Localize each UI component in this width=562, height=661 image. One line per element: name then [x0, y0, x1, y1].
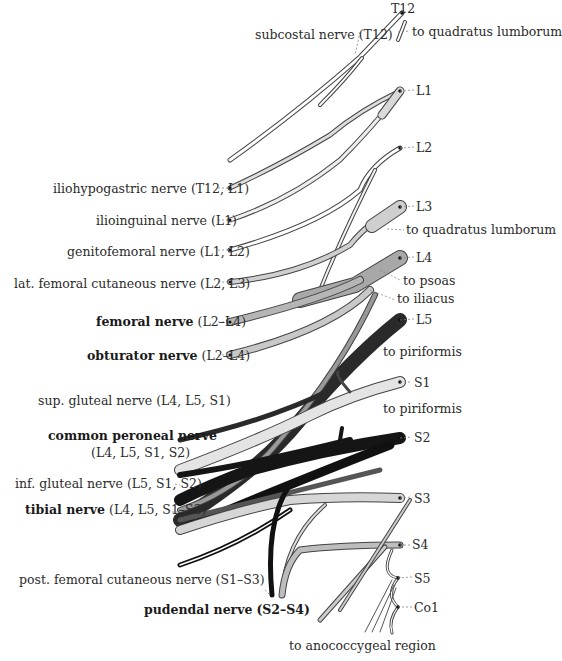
nerve-label-genitofemoral: genitofemoral nerve (L1, L2) — [67, 245, 250, 259]
root-label-L4: L4 — [416, 251, 432, 265]
root-label-T12: T12 — [391, 2, 415, 16]
nerve-label-lat-femoral-cutaneous: lat. femoral cutaneous nerve (L2, L3) — [14, 277, 250, 291]
root-label-L1: L1 — [416, 84, 432, 98]
branch-label-psoas: to psoas — [403, 274, 455, 288]
nerve-label-subcostal: subcostal nerve (T12) — [255, 28, 393, 42]
nerve-label-common-peroneal: common peroneal nerve — [48, 429, 217, 443]
nerve-label-common-peroneal-segments: (L4, L5, S1, S2) — [91, 446, 190, 460]
root-label-L5: L5 — [416, 313, 432, 327]
root-label-S3: S3 — [414, 492, 431, 506]
nerve-label-iliohypogastric: iliohypogastric nerve (T12, L1) — [53, 182, 249, 196]
branch-label-quadratus-lumborum-t12: to quadratus lumborum — [412, 25, 562, 39]
root-label-S4: S4 — [412, 538, 429, 552]
branch-label-quadratus-lumborum-l3: to quadratus lumborum — [406, 223, 556, 237]
branch-label-anococcygeal: to anococcygeal region — [289, 639, 436, 653]
nerve-label-sup-gluteal: sup. gluteal nerve (L4, L5, S1) — [38, 394, 231, 408]
nerve-label-post-femoral-cutaneous: post. femoral cutaneous nerve (S1–S3) — [19, 573, 265, 587]
root-label-L2: L2 — [416, 141, 432, 155]
nerve-label-femoral: femoral nerve (L2–L4) — [96, 315, 246, 329]
branch-label-piriformis-s1: to piriformis — [383, 345, 462, 359]
nerve-label-pudendal: pudendal nerve (S2–S4) — [144, 603, 310, 617]
nerve-label-inf-gluteal: inf. gluteal nerve (L5, S1, S2) — [15, 477, 202, 491]
root-label-S5: S5 — [414, 572, 431, 586]
branch-label-iliacus: to iliacus — [397, 292, 454, 306]
nerve-label-ilioinguinal: ilioinguinal nerve (L1) — [96, 214, 237, 228]
root-label-S1: S1 — [414, 376, 431, 390]
branch-label-piriformis-s2: to piriformis — [383, 402, 462, 416]
nerve-label-tibial: tibial nerve (L4, L5, S1–S3) — [25, 503, 206, 517]
root-label-Co1: Co1 — [414, 601, 439, 615]
nerve-label-obturator: obturator nerve (L2–L4) — [87, 349, 250, 363]
root-label-S2: S2 — [414, 431, 431, 445]
root-label-L3: L3 — [416, 200, 432, 214]
